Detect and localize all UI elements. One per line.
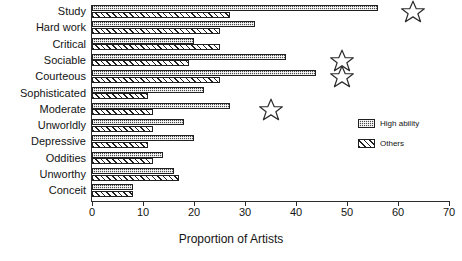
bar-high-ability xyxy=(92,21,255,27)
category-label: Depressive xyxy=(31,136,86,147)
bar-high-ability xyxy=(92,103,230,109)
bar-group xyxy=(92,168,450,184)
category-label: Unworthy xyxy=(40,169,86,180)
category-label: Moderate xyxy=(40,104,86,115)
bar-others xyxy=(92,142,148,148)
star-icon xyxy=(329,64,355,90)
x-axis-line xyxy=(91,201,450,202)
x-tick-label: 10 xyxy=(128,207,158,218)
bar-high-ability xyxy=(92,168,174,174)
category-label: Unworldly xyxy=(38,120,86,131)
category-label: Courteous xyxy=(35,71,86,82)
bar-others xyxy=(92,191,133,197)
bar-others xyxy=(92,44,220,50)
bar-others xyxy=(92,158,153,164)
star-icon xyxy=(258,97,284,123)
x-tick-label: 70 xyxy=(434,207,462,218)
bar-others xyxy=(92,93,148,99)
legend-item: High ability xyxy=(358,118,444,133)
bar-group xyxy=(92,38,450,54)
legend-item: Others xyxy=(358,138,444,153)
bar-high-ability xyxy=(92,54,286,60)
category-label: Critical xyxy=(52,39,86,50)
bar-others xyxy=(92,12,230,18)
bar-others xyxy=(92,28,220,34)
chart-legend: High abilityOthers xyxy=(358,118,444,158)
x-axis-title: Proportion of Artists xyxy=(0,232,462,246)
bar-high-ability xyxy=(92,38,194,44)
category-label: Sophisticated xyxy=(20,88,86,99)
x-tick-label: 30 xyxy=(230,207,260,218)
x-tick-label: 60 xyxy=(383,207,413,218)
legend-swatch xyxy=(358,139,375,148)
star-icon xyxy=(400,0,426,25)
bar-others xyxy=(92,77,220,83)
category-axis: StudyHard workCriticalSociableCourteousS… xyxy=(0,0,86,200)
bar-high-ability xyxy=(92,119,184,125)
bar-high-ability xyxy=(92,87,204,93)
bar-others xyxy=(92,60,189,66)
x-tick-label: 0 xyxy=(77,207,107,218)
bar-high-ability xyxy=(92,184,133,190)
bar-high-ability xyxy=(92,5,378,11)
category-label: Sociable xyxy=(44,55,86,66)
bar-group xyxy=(92,5,450,21)
category-label: Conceit xyxy=(49,185,86,196)
category-label: Study xyxy=(58,6,86,17)
bar-others xyxy=(92,175,179,181)
legend-swatch xyxy=(358,119,375,128)
bar-group xyxy=(92,54,450,70)
x-tick-label: 40 xyxy=(281,207,311,218)
legend-label: High ability xyxy=(380,118,419,129)
category-label: Oddities xyxy=(46,153,86,164)
bar-high-ability xyxy=(92,152,163,158)
bar-others xyxy=(92,126,153,132)
bar-high-ability xyxy=(92,135,194,141)
category-label: Hard work xyxy=(36,22,86,33)
bar-group xyxy=(92,184,450,200)
bar-high-ability xyxy=(92,70,316,76)
legend-label: Others xyxy=(380,138,404,149)
bar-chart: StudyHard workCriticalSociableCourteousS… xyxy=(0,0,462,261)
x-tick-label: 20 xyxy=(179,207,209,218)
bar-group xyxy=(92,21,450,37)
x-tick-label: 50 xyxy=(332,207,362,218)
bar-others xyxy=(92,109,153,115)
bar-group xyxy=(92,70,450,86)
